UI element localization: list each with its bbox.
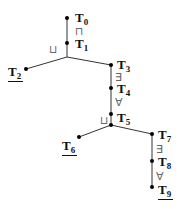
edge-label-t1-junction1: ⊔ — [49, 43, 58, 56]
node-dot-t0 — [65, 16, 69, 20]
tableau-tree-diagram: ⊓ ⊔ ∃ ∀ ⊔ ∃ ∀ T0 T1 T2 T3 T4 T5 T6 T7 T8… — [0, 0, 180, 209]
junction-dot-2 — [109, 123, 113, 127]
node-label-t7: T7 — [158, 127, 172, 144]
node-dot-t5 — [109, 112, 113, 116]
edge-junction1-t3 — [67, 57, 111, 65]
edge-label-t5-junction2: ⊔ — [100, 114, 109, 127]
node-label-t1: T1 — [75, 36, 89, 53]
node-label-t2: T2 — [8, 64, 22, 81]
edge-junction1-t2 — [26, 57, 67, 69]
node-label-t9: T9 — [158, 182, 172, 199]
node-label-t3: T3 — [117, 57, 131, 74]
node-dot-t9 — [150, 185, 154, 189]
node-dot-t4 — [109, 86, 113, 90]
node-label-t6: T6 — [62, 138, 76, 155]
node-dot-t8 — [150, 159, 154, 163]
node-dot-t3 — [109, 63, 113, 67]
node-dot-t6 — [77, 135, 81, 139]
edge-junction2-t7 — [111, 125, 152, 134]
edge-label-t4-t5: ∀ — [115, 96, 123, 109]
node-label-t5: T5 — [117, 110, 131, 127]
node-dot-t2 — [24, 67, 28, 71]
node-label-t8: T8 — [158, 154, 172, 171]
node-dot-t7 — [150, 132, 154, 136]
node-label-t4: T4 — [117, 81, 131, 98]
node-label-t0: T0 — [75, 10, 89, 27]
node-dot-t1 — [65, 41, 69, 45]
